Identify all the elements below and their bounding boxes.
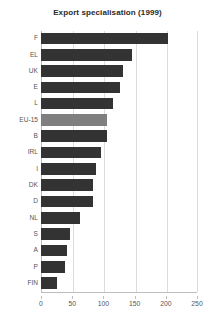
bar	[41, 277, 57, 289]
category-label: F	[34, 33, 38, 42]
bar-row: I	[41, 162, 197, 177]
gridline	[197, 31, 198, 292]
x-axis-tick-label: 250	[191, 300, 202, 307]
category-label: S	[34, 229, 38, 238]
category-label: UK	[29, 66, 38, 75]
bar	[41, 49, 132, 61]
bar-row: A	[41, 243, 197, 258]
category-label: D	[33, 196, 38, 205]
bar-row: IRL	[41, 145, 197, 160]
bar	[41, 245, 67, 257]
x-axis: 050100150200250	[0, 296, 215, 310]
bar-row: UK	[41, 64, 197, 79]
category-label: DK	[29, 180, 38, 189]
category-label: E	[34, 82, 38, 91]
chart-container: Export specialisation (1999) FELUKELEU-1…	[0, 0, 215, 324]
bar	[41, 33, 168, 45]
bar-row: EL	[41, 47, 197, 62]
category-label: IRL	[28, 147, 38, 156]
x-axis-tick	[72, 296, 75, 299]
x-axis-tick	[41, 296, 44, 299]
bar-row: L	[41, 96, 197, 111]
bar	[41, 163, 96, 175]
category-label: NL	[30, 213, 38, 222]
x-axis-tick-label: 0	[39, 300, 43, 307]
bar	[41, 179, 93, 191]
bar	[41, 212, 80, 224]
bar-row: P	[41, 259, 197, 274]
bar-row: E	[41, 80, 197, 95]
bar	[41, 147, 101, 159]
bar-row: B	[41, 129, 197, 144]
bar	[41, 82, 120, 94]
category-label: EU-15	[19, 115, 38, 124]
bar	[41, 65, 123, 77]
bar-rows: FELUKELEU-15BIRLIDKDNLSAPFIN	[41, 31, 197, 292]
chart-title: Export specialisation (1999)	[0, 8, 215, 17]
x-axis-tick	[135, 296, 138, 299]
category-label: B	[34, 131, 38, 140]
bar	[41, 228, 70, 240]
x-axis-tick-label: 200	[160, 300, 171, 307]
bar	[41, 98, 113, 110]
bar	[41, 261, 65, 273]
bar-row: DK	[41, 178, 197, 193]
category-label: FIN	[27, 278, 38, 287]
x-axis-tick	[103, 296, 106, 299]
category-label: A	[34, 245, 38, 254]
bar-row: NL	[41, 210, 197, 225]
x-axis-tick	[197, 296, 200, 299]
bar-row: EU-15	[41, 113, 197, 128]
bar-row: D	[41, 194, 197, 209]
x-axis-tick-label: 100	[98, 300, 109, 307]
bar-row: F	[41, 31, 197, 46]
category-label: EL	[30, 50, 38, 59]
category-label: L	[34, 98, 38, 107]
bar	[41, 196, 93, 208]
bar-row: FIN	[41, 276, 197, 291]
category-label: I	[36, 164, 38, 173]
bar-row: S	[41, 227, 197, 242]
x-axis-tick	[166, 296, 169, 299]
x-axis-tick-label: 150	[129, 300, 140, 307]
x-axis-tick-label: 50	[68, 300, 76, 307]
category-label: P	[34, 262, 38, 271]
bar	[41, 130, 107, 142]
bar	[41, 114, 107, 126]
